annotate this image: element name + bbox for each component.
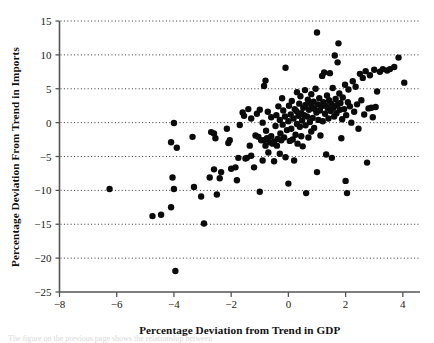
data-point: [285, 180, 291, 186]
data-point: [367, 72, 373, 78]
data-point: [311, 125, 317, 131]
data-point: [355, 126, 361, 132]
data-point: [207, 174, 213, 180]
data-point: [370, 114, 376, 120]
y-tick-label--20: −20: [34, 252, 52, 264]
data-point: [247, 142, 253, 148]
data-point: [289, 98, 295, 104]
data-point: [251, 164, 257, 170]
data-point: [237, 122, 243, 128]
x-tick-label-4: 4: [400, 298, 406, 310]
data-point: [214, 191, 220, 197]
y-tick-label-15: 15: [41, 15, 53, 27]
data-point: [302, 87, 308, 93]
data-point: [291, 157, 297, 163]
data-point: [217, 175, 223, 181]
data-point: [280, 107, 286, 113]
data-point: [234, 177, 240, 183]
data-point: [401, 79, 407, 85]
data-point: [257, 107, 263, 113]
data-point: [335, 40, 341, 46]
data-point: [271, 158, 277, 164]
x-tick-label--8: −8: [54, 298, 66, 310]
data-point: [320, 118, 326, 124]
data-point: [265, 109, 271, 115]
data-point: [347, 103, 353, 109]
data-point: [327, 70, 333, 76]
data-point: [211, 166, 217, 172]
data-point: [282, 154, 288, 160]
data-point: [224, 126, 230, 132]
data-point: [332, 52, 338, 58]
x-axis-ticks-group: −8−6−4−2024: [54, 292, 406, 310]
data-point: [248, 115, 254, 121]
data-point: [342, 178, 348, 184]
data-point: [259, 119, 265, 125]
data-point: [321, 69, 327, 75]
data-point: [345, 86, 351, 92]
data-point: [348, 119, 354, 125]
data-point: [341, 106, 347, 112]
data-point: [279, 121, 285, 127]
data-point: [352, 84, 358, 90]
data-point: [334, 59, 340, 65]
y-axis-title: Percentage Deviation From Trend in Impor…: [9, 47, 21, 267]
data-point: [259, 157, 265, 163]
data-point: [268, 133, 274, 139]
data-point: [330, 85, 336, 91]
data-point: [360, 75, 366, 81]
x-tick-label--4: −4: [168, 298, 180, 310]
y-axis-ticks-group: 151050−5−10−15−20−25: [34, 15, 59, 298]
data-point: [248, 153, 254, 159]
data-point: [245, 106, 251, 112]
x-tick-label--2: −2: [225, 298, 237, 310]
x-tick-label--6: −6: [111, 298, 123, 310]
data-point: [191, 184, 197, 190]
data-point: [364, 159, 370, 165]
data-point: [235, 155, 241, 161]
y-tick-label-5: 5: [46, 83, 52, 95]
data-point: [343, 112, 349, 118]
data-point: [171, 120, 177, 126]
data-point: [262, 77, 268, 83]
data-point: [169, 174, 175, 180]
data-point: [288, 126, 294, 132]
data-point: [227, 137, 233, 143]
gridlines-group: [61, 21, 421, 258]
data-point: [297, 93, 303, 99]
data-point: [329, 155, 335, 161]
y-tick-label--25: −25: [34, 286, 52, 298]
data-point: [263, 128, 269, 134]
data-point: [314, 29, 320, 35]
data-point: [168, 204, 174, 210]
data-point: [279, 95, 285, 101]
data-point: [261, 83, 267, 89]
data-point: [282, 65, 288, 71]
data-point: [277, 151, 283, 157]
data-point: [171, 186, 177, 192]
data-points-group: [106, 29, 407, 274]
data-point: [361, 111, 367, 117]
data-point: [201, 220, 207, 226]
data-point: [372, 104, 378, 110]
data-point: [323, 151, 329, 157]
data-point: [325, 115, 331, 121]
data-point: [272, 123, 278, 129]
data-point: [314, 169, 320, 175]
data-point: [232, 164, 238, 170]
data-point: [292, 132, 298, 138]
data-point: [297, 123, 303, 129]
y-tick-label--5: −5: [40, 151, 52, 163]
y-tick-label--10: −10: [34, 184, 52, 196]
data-point: [218, 169, 224, 175]
data-point: [338, 135, 344, 141]
data-point: [305, 134, 311, 140]
data-point: [274, 142, 280, 148]
data-point: [212, 135, 218, 141]
data-point: [189, 134, 195, 140]
data-point: [198, 193, 204, 199]
data-point: [106, 186, 112, 192]
data-point: [241, 113, 247, 119]
data-point: [265, 149, 271, 155]
data-point: [350, 78, 356, 84]
